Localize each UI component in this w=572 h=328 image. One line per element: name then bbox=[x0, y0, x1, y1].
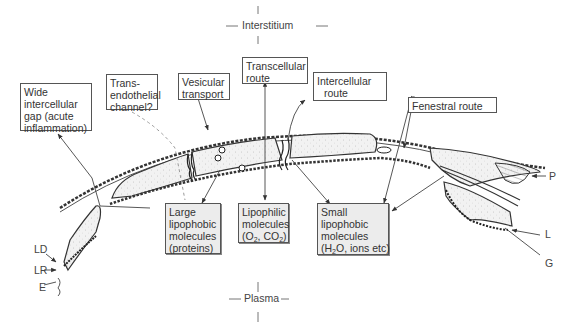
route-box-transcellular: Transcellular route bbox=[242, 57, 308, 84]
molecule-box-large-lipophobic: Large lipophobic molecules (proteins) bbox=[165, 203, 221, 254]
label-L: L bbox=[545, 228, 551, 240]
route-box-fenestral: Fenestral route bbox=[408, 97, 497, 113]
vesicle bbox=[219, 147, 225, 153]
route-box-wide-gap: Wide intercellular gap (acute inflammati… bbox=[20, 83, 92, 131]
molecule-box-lipophilic: Lipophilic molecules (O2, CO2) bbox=[238, 203, 289, 243]
label-G: G bbox=[545, 257, 553, 269]
vesicle bbox=[215, 155, 221, 161]
molecule-box-small-lipophobic: Small lipophobic molecules (H2O, ions et… bbox=[317, 203, 389, 255]
arrow-fenestral-3 bbox=[392, 176, 444, 211]
vesicle bbox=[239, 165, 245, 171]
endothelial-cell-2 bbox=[192, 138, 282, 176]
formula-h2o: (H2O, ions etc) bbox=[321, 242, 385, 254]
plasma-label: Plasma bbox=[242, 292, 281, 304]
route-box-intercellular: Intercellular route bbox=[313, 72, 387, 101]
endothelial-cell-3 bbox=[290, 133, 377, 158]
fenestrated-cell-lower bbox=[444, 182, 512, 226]
formula-o2-co2: (O2, CO2) bbox=[242, 230, 285, 242]
label-LR: LR bbox=[34, 264, 47, 276]
label-P: P bbox=[549, 170, 556, 182]
capillary-wall-diagram bbox=[0, 0, 572, 328]
route-box-trans-endothelial: Trans- endothelial channel? bbox=[106, 74, 158, 110]
label-LD: LD bbox=[34, 243, 47, 255]
arrow-wide-gap bbox=[58, 134, 150, 208]
arrow-large-lipophobic bbox=[202, 170, 220, 203]
arrow-intercellular-small bbox=[292, 160, 330, 204]
route-box-vesicular: Vesicular transport bbox=[178, 73, 230, 100]
label-E: E bbox=[39, 281, 46, 293]
interstitium-label: Interstitium bbox=[240, 19, 295, 31]
arrow-intercellular bbox=[288, 100, 305, 140]
